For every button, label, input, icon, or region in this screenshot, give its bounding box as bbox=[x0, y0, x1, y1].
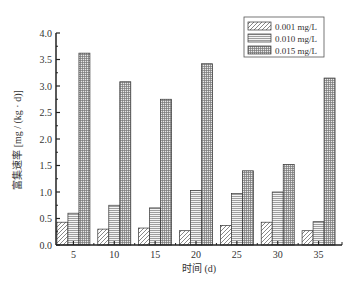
legend-label: 0.015 mg/L bbox=[275, 46, 317, 56]
legend-swatch bbox=[248, 22, 271, 30]
legend-swatch bbox=[248, 34, 271, 42]
y-tick-label: 2.0 bbox=[40, 134, 53, 145]
x-tick-label: 20 bbox=[191, 249, 201, 260]
y-axis-title: 富集速率 [mg / (kg · d)] bbox=[11, 90, 24, 190]
y-tick-label: 3.0 bbox=[40, 81, 53, 92]
bars-group bbox=[57, 53, 335, 245]
y-tick-label: 2.5 bbox=[40, 107, 53, 118]
y-tick-label: 4.0 bbox=[40, 28, 53, 39]
legend: 0.001 mg/L0.010 mg/L0.015 mg/L bbox=[244, 17, 324, 57]
x-tick-label: 30 bbox=[273, 249, 283, 260]
bar-0-001-mg-L-10 bbox=[98, 229, 109, 245]
bar-0-010-mg-L-10 bbox=[109, 205, 120, 245]
bar-0-001-mg-L-25 bbox=[220, 225, 231, 245]
bar-0-015-mg-L-15 bbox=[161, 99, 172, 245]
y-tick-label: 1.5 bbox=[40, 160, 53, 171]
x-tick-label: 10 bbox=[109, 249, 119, 260]
x-axis-title: 时间 (d) bbox=[182, 262, 216, 275]
legend-swatch bbox=[248, 46, 271, 54]
bar-chart: 51015202530350.00.51.01.52.02.53.03.54.0… bbox=[0, 0, 357, 295]
y-tick-label: 3.5 bbox=[40, 54, 53, 65]
bar-0-001-mg-L-20 bbox=[180, 231, 191, 245]
x-tick-label: 15 bbox=[150, 249, 160, 260]
bar-0-001-mg-L-30 bbox=[261, 222, 272, 245]
bar-0-010-mg-L-5 bbox=[68, 213, 79, 245]
bar-0-001-mg-L-15 bbox=[139, 228, 150, 245]
bar-0-001-mg-L-5 bbox=[57, 222, 68, 245]
bar-0-015-mg-L-30 bbox=[283, 164, 294, 245]
bar-0-015-mg-L-20 bbox=[202, 64, 213, 245]
bar-0-015-mg-L-25 bbox=[242, 171, 253, 245]
x-tick-label: 25 bbox=[232, 249, 242, 260]
bar-0-015-mg-L-10 bbox=[120, 82, 131, 245]
bar-0-010-mg-L-25 bbox=[231, 194, 242, 245]
y-tick-label: 0.5 bbox=[40, 213, 53, 224]
bar-0-015-mg-L-35 bbox=[324, 78, 335, 245]
bar-0-015-mg-L-5 bbox=[79, 53, 90, 245]
bar-0-010-mg-L-20 bbox=[191, 190, 202, 245]
legend-label: 0.010 mg/L bbox=[275, 34, 317, 44]
y-tick-label: 1.0 bbox=[40, 187, 53, 198]
bar-0-010-mg-L-30 bbox=[272, 192, 283, 245]
x-tick-label: 35 bbox=[314, 249, 324, 260]
bar-0-001-mg-L-35 bbox=[302, 231, 313, 245]
x-tick-label: 5 bbox=[71, 249, 76, 260]
bar-0-010-mg-L-15 bbox=[150, 208, 161, 245]
y-tick-label: 0.0 bbox=[40, 240, 53, 251]
legend-label: 0.001 mg/L bbox=[275, 22, 317, 32]
